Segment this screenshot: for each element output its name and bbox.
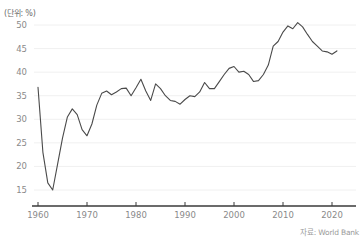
x-tick-label: 1970 (76, 210, 98, 220)
source-attribution: 자료: World Bank (300, 226, 359, 237)
x-tick-label: 2000 (223, 210, 245, 220)
y-tick-label: 15 (16, 185, 27, 195)
y-tick-label: 50 (16, 20, 27, 30)
y-tick-label: 30 (16, 114, 27, 124)
y-tick-label: 40 (16, 67, 27, 77)
y-tick-label: 35 (16, 91, 27, 101)
y-axis-tick-labels: 1520253035404550 (16, 20, 27, 195)
y-tick-label: 45 (16, 44, 27, 54)
x-tick-label: 1980 (125, 210, 147, 220)
data-series-line (38, 23, 337, 190)
chart-container: (단위: %) 1520253035404550 196019701980199… (0, 0, 363, 241)
x-tick-label: 2020 (321, 210, 343, 220)
line-chart-plot: 1520253035404550 19601970198019902000201… (0, 0, 363, 241)
x-tick-label: 2010 (272, 210, 294, 220)
x-axis-tick-labels: 1960197019801990200020102020 (27, 210, 343, 220)
x-tick-label: 1990 (174, 210, 196, 220)
y-tick-label: 20 (16, 161, 27, 171)
gridlines (34, 25, 356, 190)
y-tick-label: 25 (16, 138, 27, 148)
x-tick-label: 1960 (27, 210, 49, 220)
